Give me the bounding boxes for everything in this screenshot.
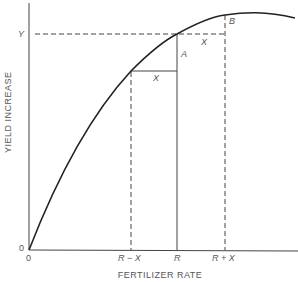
yield-curve bbox=[29, 13, 295, 250]
x-axis-label: FERTILIZER RATE bbox=[0, 270, 298, 280]
point-b-label: B bbox=[229, 17, 235, 26]
y-tick-label: Y bbox=[18, 30, 24, 39]
x-increment-lower-label: X bbox=[153, 74, 159, 83]
point-a-label: A bbox=[181, 50, 187, 59]
x-tick-r-minus-x: R − X bbox=[118, 254, 141, 263]
yield-response-diagram bbox=[0, 0, 298, 282]
x-increment-upper-label: X bbox=[201, 38, 207, 47]
x-tick-r-plus-x: R + X bbox=[212, 254, 235, 263]
x-axis bbox=[29, 250, 298, 251]
x-tick-r: R bbox=[174, 254, 181, 263]
origin-x-label: 0 bbox=[26, 254, 31, 263]
origin-y-label: 0 bbox=[19, 244, 24, 253]
y-axis-label: YIELD INCREASE bbox=[3, 71, 13, 153]
